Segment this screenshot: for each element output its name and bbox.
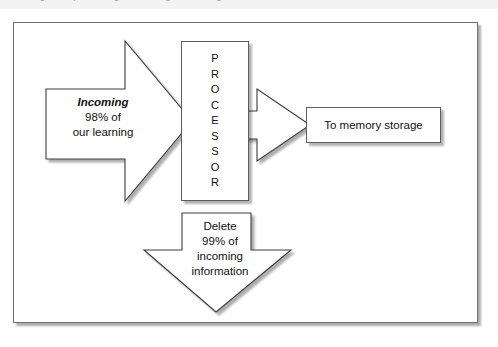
incoming-arrow bbox=[46, 41, 192, 201]
page-caption-text: Figure — processing and filtering of inc… bbox=[32, 0, 271, 1]
page-caption-strip: Figure — processing and filtering of inc… bbox=[0, 0, 498, 9]
processor-node: P R O C E S S O R bbox=[181, 41, 249, 201]
processor-label: P R O C E S S O R bbox=[211, 51, 220, 191]
processor-letter: O bbox=[211, 82, 220, 98]
delete-arrow bbox=[144, 213, 291, 312]
processor-letter: P bbox=[211, 51, 220, 67]
processor-letter: E bbox=[211, 113, 220, 129]
processor-letter: S bbox=[211, 144, 220, 160]
processor-letter: R bbox=[211, 67, 220, 83]
memory-storage-node: To memory storage bbox=[306, 107, 441, 143]
processor-letter: R bbox=[211, 175, 220, 191]
figure-frame: P R O C E S S O R To memory storage Inco… bbox=[13, 22, 478, 323]
memory-storage-label: To memory storage bbox=[324, 119, 422, 131]
processor-letter: O bbox=[211, 160, 220, 176]
processor-letter: S bbox=[211, 129, 220, 145]
processor-letter: C bbox=[211, 98, 220, 114]
